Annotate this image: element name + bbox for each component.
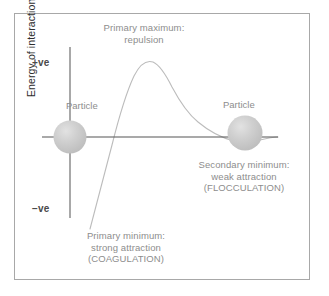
annotation-secondary-minimum: Secondary minimum: weak attraction (FLOC… bbox=[178, 159, 310, 194]
particle-left bbox=[54, 121, 87, 154]
particle-right-label: Particle bbox=[223, 99, 255, 110]
y-tick-negative: −ve bbox=[32, 203, 50, 214]
particle-left-label: Particle bbox=[66, 100, 98, 111]
annotation-primary-minimum: Primary minimum: strong attraction (COAG… bbox=[62, 230, 190, 265]
particle-right bbox=[228, 116, 263, 151]
y-axis-label: Energy of interaction bbox=[25, 0, 37, 97]
diagram-root: +ve −ve Energy of interaction Primary ma… bbox=[0, 0, 329, 296]
annotation-primary-maximum: Primary maximum: repulsion bbox=[86, 22, 202, 45]
